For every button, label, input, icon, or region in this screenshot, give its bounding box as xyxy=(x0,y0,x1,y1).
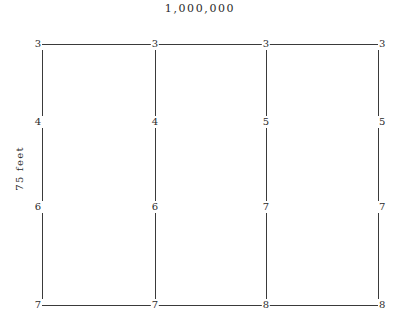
horizontal-rule-row-bottom xyxy=(42,305,378,306)
diagram-canvas: 1,000,000 75 feet 3333445566777788 xyxy=(0,0,400,323)
vertical-rule-column-2-seg1 xyxy=(155,128,156,201)
page-title: 1,000,000 xyxy=(0,2,400,15)
station-label-r0-c2: 3 xyxy=(262,38,270,50)
vertical-rule-column-3-seg1 xyxy=(266,128,267,201)
station-label-r1-c3: 5 xyxy=(378,116,386,128)
station-label-r3-c2: 8 xyxy=(262,299,270,311)
station-label-r0-c1: 3 xyxy=(151,38,159,50)
station-label-r0-c0: 3 xyxy=(34,38,42,50)
station-label-r3-c3: 8 xyxy=(378,299,386,311)
vertical-rule-column-4-seg2 xyxy=(378,213,379,299)
station-label-r1-c0: 4 xyxy=(34,116,42,128)
station-label-r1-c2: 5 xyxy=(262,116,270,128)
vertical-rule-column-4-seg0 xyxy=(378,50,379,116)
vertical-rule-column-3-seg2 xyxy=(266,213,267,299)
station-label-r3-c1: 7 xyxy=(151,299,159,311)
station-label-r2-c0: 6 xyxy=(34,201,42,213)
station-label-r0-c3: 3 xyxy=(378,38,386,50)
station-label-r3-c0: 7 xyxy=(34,299,42,311)
vertical-rule-column-2-seg0 xyxy=(155,50,156,116)
y-axis-label: 75 feet xyxy=(14,134,25,204)
station-label-r1-c1: 4 xyxy=(151,116,159,128)
vertical-rule-column-1-seg1 xyxy=(42,128,43,201)
vertical-rule-column-1-seg0 xyxy=(42,50,43,116)
station-label-r2-c2: 7 xyxy=(262,201,270,213)
vertical-rule-column-4-seg1 xyxy=(378,128,379,201)
horizontal-rule-row-top xyxy=(42,44,378,45)
vertical-rule-column-2-seg2 xyxy=(155,213,156,299)
vertical-rule-column-1-seg2 xyxy=(42,213,43,299)
vertical-rule-column-3-seg0 xyxy=(266,50,267,116)
station-label-r2-c3: 7 xyxy=(378,201,386,213)
station-label-r2-c1: 6 xyxy=(151,201,159,213)
